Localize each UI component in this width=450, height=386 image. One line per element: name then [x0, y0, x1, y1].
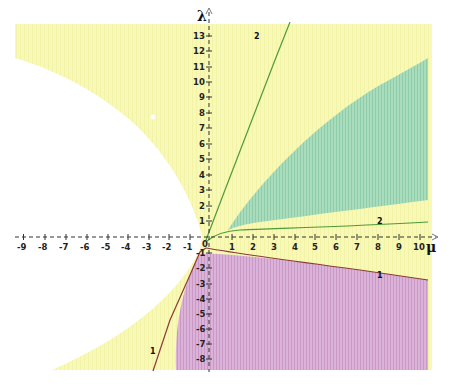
svg-text:2: 2	[250, 242, 256, 252]
svg-text:5: 5	[199, 154, 205, 164]
curve-label-2-top: 2	[254, 32, 260, 41]
svg-text:1: 1	[199, 216, 205, 226]
svg-text:-3: -3	[142, 242, 152, 252]
x-axis-name: μ	[426, 239, 436, 255]
svg-text:-4: -4	[121, 242, 131, 252]
svg-text:-8: -8	[38, 242, 48, 252]
svg-text:3: 3	[271, 242, 277, 252]
svg-text:-2: -2	[162, 242, 172, 252]
svg-text:10: 10	[193, 77, 205, 87]
svg-text:-6: -6	[80, 242, 90, 252]
svg-text:6: 6	[199, 139, 205, 149]
stability-diagram: λ μ 0 -9 -8 -7 -6 -5 -4 -3 -2 -1 1 2 3 4…	[0, 0, 450, 386]
curve-label-2-right: 2	[377, 217, 383, 226]
curve-label-1-right: 1	[377, 271, 383, 280]
svg-text:-2: -2	[196, 263, 206, 273]
svg-text:7: 7	[354, 242, 360, 252]
svg-text:-1: -1	[183, 242, 193, 252]
svg-text:8: 8	[375, 242, 381, 252]
svg-text:-7: -7	[59, 242, 69, 252]
svg-text:-1: -1	[196, 248, 206, 258]
svg-text:9: 9	[396, 242, 402, 252]
svg-text:-6: -6	[196, 324, 206, 334]
svg-text:4: 4	[292, 242, 298, 252]
svg-text:10: 10	[413, 242, 425, 252]
y-axis-name: λ	[197, 8, 207, 24]
svg-text:7: 7	[199, 123, 205, 133]
svg-text:1: 1	[229, 242, 235, 252]
svg-text:-5: -5	[196, 309, 206, 319]
svg-text:8: 8	[199, 108, 205, 118]
svg-text:11: 11	[193, 62, 205, 72]
svg-text:12: 12	[193, 46, 205, 56]
svg-text:2: 2	[199, 201, 205, 211]
curve-label-1-left: 1	[150, 347, 156, 356]
svg-text:-4: -4	[196, 294, 206, 304]
svg-text:5: 5	[312, 242, 318, 252]
svg-text:4: 4	[199, 170, 205, 180]
svg-text:-7: -7	[196, 339, 206, 349]
svg-text:9: 9	[199, 92, 205, 102]
svg-text:13: 13	[193, 31, 205, 41]
svg-text:-9: -9	[17, 242, 27, 252]
svg-text:-5: -5	[101, 242, 111, 252]
marker-dot	[151, 115, 156, 120]
svg-text:-3: -3	[196, 279, 206, 289]
svg-text:6: 6	[333, 242, 339, 252]
svg-text:3: 3	[199, 185, 205, 195]
svg-text:-8: -8	[196, 354, 206, 364]
